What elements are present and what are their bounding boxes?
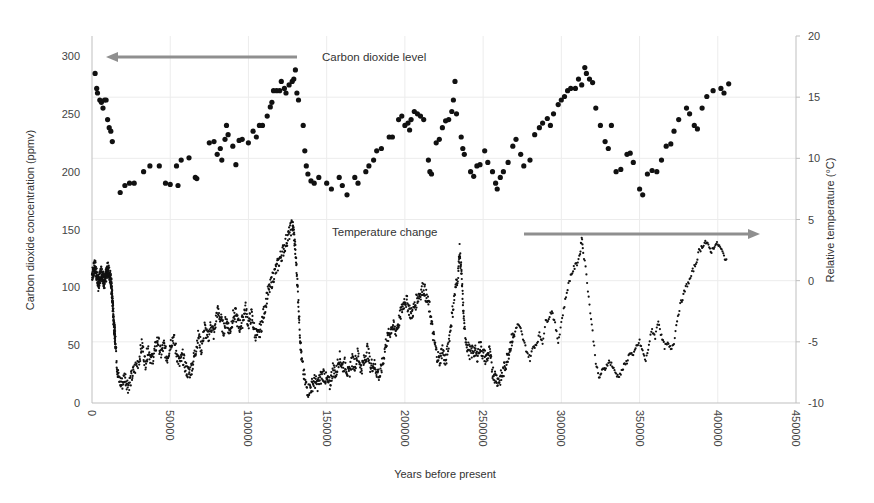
temperature-point <box>420 289 422 291</box>
temperature-point <box>127 392 129 394</box>
temperature-point <box>400 318 402 320</box>
temperature-point <box>548 318 550 320</box>
temperature-point <box>275 265 277 267</box>
temperature-point <box>549 316 551 318</box>
temperature-point <box>345 369 347 371</box>
temperature-point <box>462 304 464 306</box>
temperature-point <box>576 264 578 266</box>
temperature-point <box>201 343 203 345</box>
temperature-point <box>573 265 575 267</box>
temperature-point <box>379 367 381 369</box>
temperature-point <box>384 351 386 353</box>
co2-point <box>127 181 132 186</box>
temperature-point <box>292 226 294 228</box>
temperature-point <box>332 362 334 364</box>
temperature-point <box>239 319 241 321</box>
co2-point <box>426 158 431 163</box>
temperature-point <box>448 348 450 350</box>
temperature-point <box>369 355 371 357</box>
temperature-point <box>542 338 544 340</box>
co2-point <box>582 65 587 70</box>
temperature-point <box>231 326 233 328</box>
temperature-point <box>531 350 533 352</box>
co2-point <box>104 97 109 102</box>
temperature-point <box>264 311 266 313</box>
temperature-point <box>317 390 319 392</box>
temperature-point <box>566 292 568 294</box>
temperature-point <box>462 293 464 295</box>
temperature-point <box>284 238 286 240</box>
temperature-point <box>126 380 128 382</box>
temperature-point <box>327 381 329 383</box>
co2-point <box>337 175 342 180</box>
temperature-point <box>569 280 571 282</box>
temperature-point <box>414 301 416 303</box>
temperature-point <box>408 314 410 316</box>
temperature-point <box>195 351 197 353</box>
temperature-point <box>492 367 494 369</box>
co2-point <box>493 181 498 186</box>
temperature-point <box>245 302 247 304</box>
co2-point <box>459 134 464 139</box>
temperature-point <box>501 372 503 374</box>
temperature-point <box>430 316 432 318</box>
temperature-point <box>424 284 426 286</box>
temperature-point <box>136 363 138 365</box>
temperature-point <box>499 384 501 386</box>
temperature-point <box>139 356 141 358</box>
temperature-point <box>476 361 478 363</box>
temperature-point <box>682 293 684 295</box>
temperature-point <box>542 343 544 345</box>
temperature-point <box>654 338 656 340</box>
temperature-point <box>179 365 181 367</box>
temperature-point <box>246 313 248 315</box>
x-tick-label: 0 <box>86 410 98 416</box>
y-tick-label: 0 <box>74 397 80 409</box>
temperature-point <box>405 304 407 306</box>
temperature-point <box>128 384 130 386</box>
temperature-point <box>496 382 498 384</box>
co2-point <box>93 71 98 76</box>
temperature-point <box>402 305 404 307</box>
temperature-point <box>355 363 357 365</box>
y-tick-label: 300 <box>62 50 80 62</box>
co2-point <box>446 117 451 122</box>
co2-point <box>122 183 127 188</box>
temperature-point <box>633 351 635 353</box>
temperature-point <box>457 280 459 282</box>
co2-point <box>568 86 573 91</box>
temperature-point <box>296 274 298 276</box>
temperature-point <box>195 353 197 355</box>
temperature-point <box>461 285 463 287</box>
temperature-point <box>157 344 159 346</box>
temperature-point <box>297 301 299 303</box>
temperature-point <box>266 298 268 300</box>
temperature-point <box>132 375 134 377</box>
temperature-point <box>247 324 249 326</box>
temperature-point <box>189 376 191 378</box>
temperature-point <box>368 348 370 350</box>
co2-point <box>186 155 191 160</box>
temperature-point <box>108 266 110 268</box>
temperature-point <box>632 354 634 356</box>
temperature-point <box>567 289 569 291</box>
temperature-point <box>115 347 117 349</box>
temperature-point <box>230 330 232 332</box>
temperature-point <box>349 376 351 378</box>
temperature-point <box>374 363 376 365</box>
y-tick-label: 50 <box>68 339 80 351</box>
temperature-point <box>276 263 278 265</box>
temperature-point <box>579 253 581 255</box>
left-arrow-icon <box>106 52 118 62</box>
temperature-point <box>104 283 106 285</box>
temperature-point <box>410 312 412 314</box>
temperature-point <box>213 331 215 333</box>
temperature-point <box>154 345 156 347</box>
temperature-point <box>131 377 133 379</box>
temperature-point <box>281 260 283 262</box>
temperature-point <box>132 369 134 371</box>
temperature-point <box>452 308 454 310</box>
temperature-point <box>236 314 238 316</box>
temperature-point <box>674 337 676 339</box>
temperature-point <box>175 350 177 352</box>
